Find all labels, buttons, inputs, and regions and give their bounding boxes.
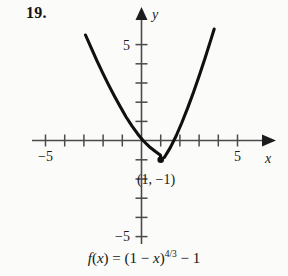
equation-exponent: 4/3 bbox=[165, 249, 177, 259]
x-tick-label-pos5: 5 bbox=[234, 149, 241, 164]
equation-equals-part: = (1 − bbox=[109, 250, 153, 266]
equation-variable-2: x bbox=[153, 250, 160, 266]
equation-tail: − 1 bbox=[177, 250, 200, 266]
y-tick-label-neg5: −5 bbox=[115, 229, 130, 244]
y-axis-label: y bbox=[150, 7, 159, 22]
y-axis-arrow-icon bbox=[136, 7, 148, 20]
vertex-point-marker bbox=[157, 157, 164, 164]
x-axis-arrow-icon bbox=[262, 135, 276, 147]
vertex-annotation-label: (1, −1) bbox=[137, 172, 176, 188]
graph-canvas: −5 5 5 −5 x y (1, −1) bbox=[0, 0, 288, 276]
figure-container: 19. bbox=[0, 0, 288, 276]
function-equation: f(x) = (1 − x)4/3 − 1 bbox=[0, 249, 288, 267]
y-tick-label-pos5: 5 bbox=[123, 38, 130, 53]
x-axis-label: x bbox=[264, 151, 272, 166]
equation-variable-1: x bbox=[97, 250, 104, 266]
x-tick-label-neg5: −5 bbox=[38, 149, 53, 164]
